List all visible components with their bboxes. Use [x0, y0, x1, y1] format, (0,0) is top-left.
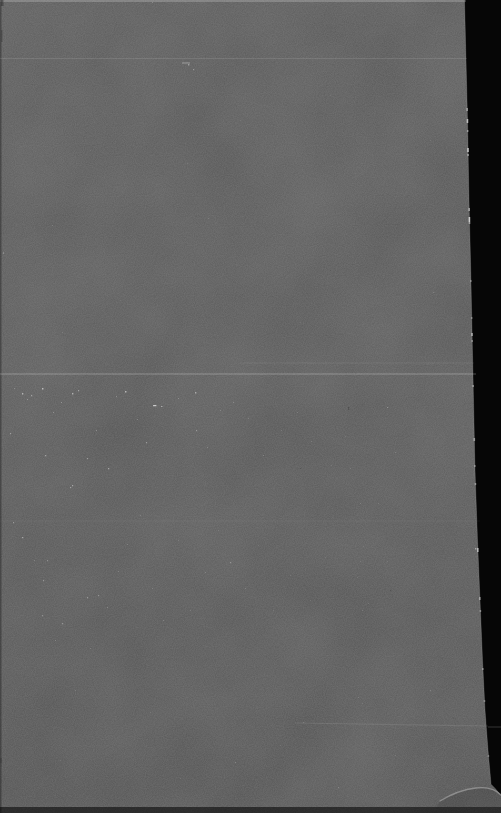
dust-speck [338, 787, 339, 788]
dust-speck [90, 648, 91, 649]
dust-speck [395, 452, 396, 453]
dust-speck [10, 433, 11, 434]
dust-speck [137, 419, 138, 420]
dust-speck [45, 455, 46, 456]
dust-speck [300, 322, 301, 323]
edge-glint [467, 130, 469, 132]
dark-speck [300, 468, 301, 469]
dust-speck [310, 600, 311, 601]
dust-speck [152, 2, 153, 3]
dust-speck [87, 597, 88, 598]
page-left-edge-shadow [0, 0, 2, 813]
dust-speck [357, 577, 358, 578]
dust-speck [240, 120, 241, 121]
dust-speck [98, 595, 99, 596]
dust-speck [475, 548, 477, 550]
dust-speck [207, 447, 208, 448]
edge-glint [471, 317, 473, 319]
dust-speck [42, 615, 43, 616]
edge-glint [469, 222, 471, 224]
dust-speck [180, 778, 181, 779]
dust-speck [311, 441, 312, 442]
edge-glint [467, 154, 469, 156]
edge-glint [484, 700, 486, 702]
dust-speck [22, 537, 23, 538]
dust-speck [325, 557, 326, 558]
photo-canvas [0, 0, 501, 813]
dust-speck [395, 255, 396, 256]
dust-speck [187, 163, 188, 164]
dust-speck [178, 540, 179, 541]
dark-speck [0, 758, 2, 763]
dust-speck [430, 690, 431, 691]
dust-speck [331, 465, 332, 466]
dust-speck [152, 588, 153, 589]
dust-speck [248, 418, 249, 419]
dust-speck [205, 572, 206, 573]
dust-speck [363, 546, 364, 547]
dust-speck [72, 393, 73, 394]
dust-speck [188, 64, 189, 65]
film-grain [0, 0, 501, 813]
dust-speck [235, 762, 236, 763]
dust-speck [330, 95, 331, 96]
dust-speck [43, 580, 44, 581]
dust-speck [78, 390, 79, 391]
dust-speck [153, 405, 157, 406]
dust-speck [258, 545, 259, 546]
dust-speck [90, 150, 91, 151]
edge-glint [471, 340, 473, 342]
dust-speck [433, 292, 435, 293]
dust-speck [303, 722, 304, 723]
edge-glint [482, 668, 484, 670]
dust-speck [245, 588, 246, 589]
dust-speck [47, 560, 48, 561]
dust-speck [233, 402, 234, 403]
edge-glint [488, 755, 490, 757]
dark-speck [1, 0, 4, 6]
dust-speck [208, 218, 209, 219]
dust-speck [368, 603, 369, 604]
dark-speck [330, 270, 331, 271]
edge-glint [480, 610, 482, 612]
dust-speck [62, 332, 63, 333]
dust-speck [345, 436, 346, 437]
dust-speck [3, 252, 4, 254]
dust-speck [362, 703, 363, 704]
dust-speck [297, 412, 298, 413]
dust-speck [27, 399, 28, 400]
dust-speck [60, 760, 61, 761]
dust-speck [55, 640, 56, 641]
dust-speck [190, 610, 191, 611]
dust-speck [193, 69, 194, 70]
edge-glint [466, 108, 468, 111]
dust-speck [116, 396, 117, 397]
dust-speck [107, 607, 108, 608]
photo-of-blank-dark-page [0, 0, 501, 813]
dust-speck [22, 393, 23, 394]
dust-speck [53, 412, 54, 413]
dust-speck [42, 388, 44, 390]
dust-speck [178, 398, 179, 399]
dust-speck [31, 395, 32, 396]
dust-speck [362, 610, 363, 611]
dust-speck [96, 430, 97, 431]
dust-speck [13, 522, 14, 523]
dust-speck [34, 560, 35, 561]
dust-speck [108, 468, 109, 469]
dust-speck [120, 300, 121, 301]
edge-glint [477, 548, 479, 552]
dust-speck [387, 561, 388, 562]
dark-speck [348, 407, 349, 410]
edge-glint [471, 333, 473, 336]
edge-glint [467, 119, 469, 123]
dust-speck [430, 140, 431, 141]
dust-speck [146, 442, 147, 443]
dust-speck [118, 571, 119, 572]
dust-speck [140, 515, 141, 516]
dust-speck [273, 610, 274, 611]
dust-speck [87, 458, 88, 459]
dark-speck [1, 30, 3, 42]
dust-speck [290, 575, 291, 576]
edge-glint [474, 465, 476, 467]
